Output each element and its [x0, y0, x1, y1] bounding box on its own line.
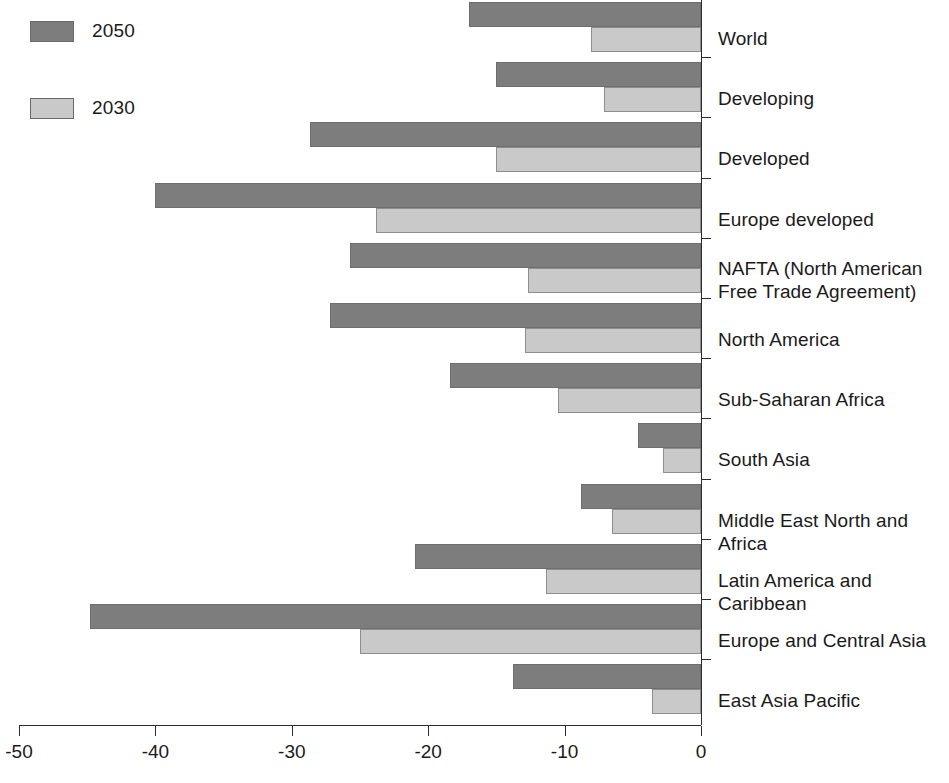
bar-2030-8	[612, 509, 701, 534]
x-tick-0	[701, 726, 702, 736]
bar-2030-5	[525, 328, 701, 353]
bar-2030-6	[558, 388, 701, 413]
bar-2050-8	[581, 484, 701, 509]
bar-2050-9	[415, 544, 701, 569]
bar-2050-11	[513, 664, 701, 689]
category-label-10: Europe and Central Asia	[718, 629, 926, 652]
bar-2050-0	[469, 2, 701, 27]
bar-2050-7	[638, 423, 701, 448]
category-tick-10	[702, 659, 711, 660]
bar-2030-10	[360, 629, 701, 654]
value-axis-zero-line	[701, 0, 702, 725]
bar-2030-0	[591, 27, 701, 52]
x-axis-line	[19, 725, 701, 726]
bar-chart: 2050 2030 WorldDevelopingDevelopedEurope…	[0, 0, 949, 783]
x-tick-label--10: -10	[551, 741, 578, 763]
bar-2030-11	[652, 689, 701, 714]
bar-2030-7	[663, 448, 701, 473]
x-tick--30	[292, 726, 293, 736]
category-tick-1	[702, 117, 711, 118]
category-tick-5	[702, 358, 711, 359]
category-tick-3	[702, 238, 711, 239]
bar-2050-5	[330, 303, 701, 328]
bar-2050-1	[496, 62, 701, 87]
plot-area: WorldDevelopingDevelopedEurope developed…	[0, 0, 949, 710]
x-tick--20	[428, 726, 429, 736]
category-label-11: East Asia Pacific	[718, 689, 860, 712]
x-tick--50	[19, 726, 20, 736]
bar-2050-3	[155, 183, 701, 208]
bar-2030-2	[496, 147, 701, 172]
category-tick-0	[702, 57, 711, 58]
x-tick-label--50: -50	[5, 741, 32, 763]
category-tick-7	[702, 479, 711, 480]
category-tick-8	[702, 539, 711, 540]
x-tick-label--20: -20	[414, 741, 441, 763]
category-label-0: World	[718, 27, 768, 50]
bar-2030-1	[604, 87, 701, 112]
bar-2030-9	[546, 569, 701, 594]
category-label-1: Developing	[718, 87, 814, 110]
category-tick-2	[702, 178, 711, 179]
bar-2030-3	[376, 208, 701, 233]
category-label-5: North America	[718, 328, 840, 351]
bar-2050-6	[450, 363, 701, 388]
category-label-9: Latin America and Caribbean	[718, 569, 949, 615]
category-label-7: South Asia	[718, 448, 810, 471]
bar-2050-10	[90, 604, 701, 629]
category-label-6: Sub-Saharan Africa	[718, 388, 885, 411]
bar-2030-4	[528, 268, 701, 293]
category-label-4: NAFTA (North American Free Trade Agreeme…	[718, 257, 922, 303]
x-tick--10	[565, 726, 566, 736]
bar-2050-2	[310, 122, 701, 147]
x-tick-label-0: 0	[696, 741, 707, 763]
x-tick--40	[155, 726, 156, 736]
x-tick-label--30: -30	[278, 741, 305, 763]
category-tick-4	[702, 298, 711, 299]
category-label-8: Middle East North and Africa	[718, 509, 949, 555]
category-label-3: Europe developed	[718, 208, 874, 231]
category-tick-6	[702, 418, 711, 419]
category-tick-9	[702, 599, 711, 600]
bar-2050-4	[350, 243, 701, 268]
category-label-2: Developed	[718, 147, 810, 170]
x-tick-label--40: -40	[142, 741, 169, 763]
